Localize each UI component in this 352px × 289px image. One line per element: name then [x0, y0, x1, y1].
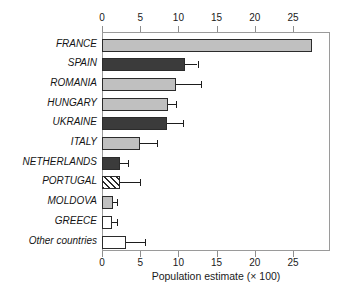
x-tick-label-top-15: 15: [204, 12, 230, 24]
error-bar-line-portugal: [120, 182, 141, 183]
x-tick-top-10: [178, 26, 179, 32]
category-label-romania: ROMANIA: [0, 77, 97, 89]
x-tick-top-20: [255, 26, 256, 32]
category-label-portugal: PORTUGAL: [0, 175, 97, 187]
error-bar-line-hungary: [168, 104, 176, 105]
bar-hungary: [102, 98, 168, 111]
error-bar-cap-netherlands: [128, 160, 129, 167]
bar-greece: [102, 216, 112, 229]
category-label-ukraine: UKRAINE: [0, 116, 97, 128]
bar-romania: [102, 78, 176, 91]
bar-netherlands: [102, 157, 120, 170]
category-label-italy: ITALY: [0, 136, 97, 148]
category-label-spain: SPAIN: [0, 57, 97, 69]
error-bar-cap-ukraine: [183, 120, 184, 127]
error-bar-line-spain: [185, 64, 198, 65]
bar-other-countries: [102, 236, 126, 249]
bar-france: [102, 39, 312, 52]
x-tick-label-top-10: 10: [165, 12, 191, 24]
error-bar-cap-romania: [201, 81, 202, 88]
category-label-other-countries: Other countries: [0, 235, 97, 247]
x-tick-label-top-5: 5: [127, 12, 153, 24]
bar-spain: [102, 58, 185, 71]
x-tick-label-bot-10: 10: [165, 257, 191, 269]
bar-moldova: [102, 196, 113, 209]
bar-italy: [102, 137, 140, 150]
category-label-greece: GREECE: [0, 215, 97, 227]
category-label-netherlands: NETHERLANDS: [0, 156, 97, 168]
x-tick-top-15: [217, 26, 218, 32]
error-bar-cap-hungary: [176, 101, 177, 108]
x-tick-label-bot-20: 20: [242, 257, 268, 269]
chart-figure: 0510152025 0510152025 FRANCESPAINROMANIA…: [0, 0, 352, 289]
category-label-france: FRANCE: [0, 38, 97, 50]
x-tick-label-bot-5: 5: [127, 257, 153, 269]
error-bar-line-netherlands: [120, 163, 128, 164]
error-bar-line-romania: [176, 84, 200, 85]
error-bar-cap-moldova: [117, 199, 118, 206]
error-bar-cap-greece: [117, 219, 118, 226]
x-tick-top-25: [293, 26, 294, 32]
x-tick-top-0: [102, 26, 103, 32]
error-bar-cap-spain: [198, 61, 199, 68]
x-tick-label-top-25: 25: [280, 12, 306, 24]
error-bar-line-italy: [140, 143, 157, 144]
category-label-hungary: HUNGARY: [0, 97, 97, 109]
bar-ukraine: [102, 117, 167, 130]
x-tick-label-top-0: 0: [89, 12, 115, 24]
category-label-moldova: MOLDOVA: [0, 195, 97, 207]
error-bar-cap-other-countries: [145, 239, 146, 246]
error-bar-cap-portugal: [140, 179, 141, 186]
bar-portugal: [102, 176, 120, 189]
error-bar-line-other-countries: [126, 242, 144, 243]
x-tick-label-bot-25: 25: [280, 257, 306, 269]
x-tick-label-top-20: 20: [242, 12, 268, 24]
x-tick-label-bot-15: 15: [204, 257, 230, 269]
x-tick-top-5: [140, 26, 141, 32]
x-tick-label-bot-0: 0: [89, 257, 115, 269]
x-axis-title: Population estimate (× 100): [102, 270, 330, 282]
error-bar-line-ukraine: [167, 123, 183, 124]
error-bar-cap-italy: [157, 140, 158, 147]
